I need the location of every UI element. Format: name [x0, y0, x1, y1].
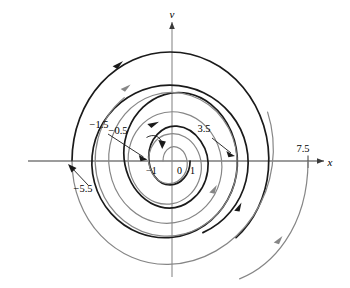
gray-spiral-curve [95, 85, 282, 245]
x-axis-label: x [327, 156, 333, 168]
gray-spiral-arrowhead-3 [274, 236, 283, 244]
gray-spiral-outer [72, 112, 308, 279]
annot-arrowhead-neg1point5 [139, 155, 148, 161]
annot-arrowhead-neg0point5 [158, 140, 166, 149]
phase-plane-plot: x v 0 1 −1 −0.5 −1.5 3.5 −5.5 7.5 [0, 0, 350, 288]
tick-label-0: 0 [177, 165, 182, 176]
black-spiral-arrowhead-3 [147, 122, 159, 128]
annotation-label-3point5: 3.5 [197, 123, 210, 134]
tick-label-1: 1 [190, 165, 195, 176]
annot-arrowhead-3point5 [226, 151, 235, 157]
figure-root: x v 0 1 −1 −0.5 −1.5 3.5 −5.5 7.5 [0, 0, 350, 288]
annotation-label-neg5point5: −5.5 [73, 183, 92, 194]
annot-leader-3point5 [212, 138, 231, 153]
annotation-label-neg1point5: −1.5 [89, 119, 108, 130]
annotation-label-neg0point5: −0.5 [108, 125, 127, 136]
gray-spiral-arrowhead-1 [121, 85, 131, 92]
annotation-label-7point5: 7.5 [296, 143, 309, 154]
tick-label-neg1: −1 [146, 165, 157, 176]
x-axis-arrowhead [317, 158, 324, 164]
y-axis-label: v [170, 8, 175, 20]
black-spiral-curve [92, 61, 248, 238]
y-axis-arrowhead [169, 22, 175, 29]
